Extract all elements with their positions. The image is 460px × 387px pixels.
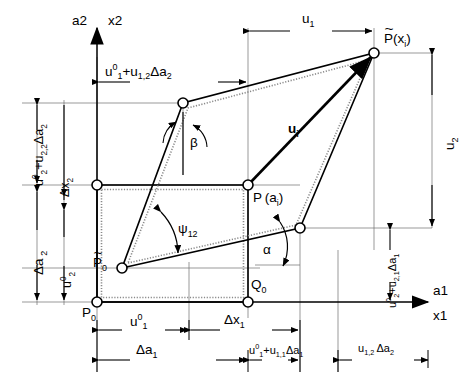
dim-bottom-delta-x1: Δx1 xyxy=(224,313,245,330)
axis-label-x2: x2 xyxy=(108,14,122,28)
angle-psi12 xyxy=(161,212,178,253)
label-vector-ui: ui xyxy=(288,122,299,139)
dim-bottom-right: u1,2 Δa2 xyxy=(358,343,394,356)
node-p0-tilde xyxy=(117,263,127,273)
axis-label-a1: a1 xyxy=(433,284,448,298)
label-p0: P0 xyxy=(82,306,96,323)
dim-bottom-mid: u01+u1,1Δa1 xyxy=(249,343,303,358)
label-angle-psi12: ψ12 xyxy=(178,222,198,239)
dim-right-outer: u02+u2,1Δa1 xyxy=(385,254,400,308)
dim-left-delta-x2: Δx2 xyxy=(59,178,75,197)
reference-rectangle-shadow xyxy=(102,190,244,298)
dim-right-u2: u2 xyxy=(443,138,460,150)
dim-left-delta-a2: Δa 2 xyxy=(32,251,49,275)
axis-label-x1: x1 xyxy=(433,309,447,323)
axis-label-a2: a2 xyxy=(72,14,87,28)
node-upper-left-displaced xyxy=(178,98,188,108)
node-q0 xyxy=(243,297,253,307)
label-p0-tilde: P0 xyxy=(93,256,107,273)
node-q0-displaced xyxy=(295,223,305,233)
dim-left-u2-zero: u02 xyxy=(60,272,77,288)
displacement-vector-ui xyxy=(248,57,371,185)
label-p-ai: P (ai) xyxy=(253,191,283,208)
label-angle-alpha: α xyxy=(263,243,271,257)
dim-bottom-u1-zero: u01 xyxy=(130,313,147,331)
node-rect-top-left xyxy=(92,180,102,190)
dim-bottom-delta-a1: Δa1 xyxy=(136,343,158,360)
node-p-tilde-xi xyxy=(369,48,379,58)
angle-beta xyxy=(163,112,207,175)
node-p-ai xyxy=(243,180,253,190)
dim-left-outer: u02+u2,2Δa2 xyxy=(32,124,49,186)
label-q0: Q0 xyxy=(251,278,266,295)
dim-top-right-u1: u1 xyxy=(302,12,314,29)
label-angle-beta: β xyxy=(190,136,198,150)
reference-rectangle xyxy=(97,185,248,302)
label-p-tilde-xi: P(xi) xyxy=(384,32,411,49)
dim-top-horizontal: u01+u1,2Δa2 xyxy=(105,63,172,81)
